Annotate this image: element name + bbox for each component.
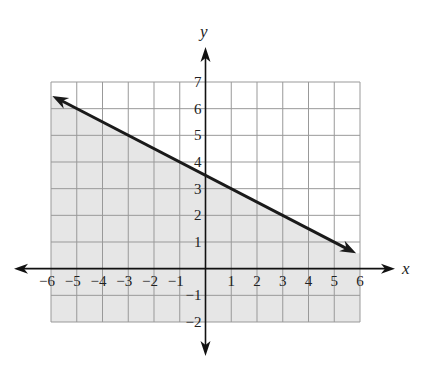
y-tick-label: 1 [194,234,202,250]
y-tick-label: 3 [194,181,202,197]
x-tick-label: −3 [116,273,132,289]
x-tick-label: 5 [331,273,339,289]
inequality-graph: −6−5−4−3−2−11234567654321−1−2 x y [0,0,423,377]
x-tick-label: 2 [253,273,261,289]
x-axis-label: x [401,259,410,278]
y-tick-label: 2 [194,207,202,223]
y-tick-label: 6 [194,101,202,117]
x-tick-label: −2 [142,273,158,289]
y-tick-label: 7 [194,74,202,90]
x-tick-label: −5 [65,273,81,289]
y-tick-label: 4 [194,154,202,170]
y-tick-label: −2 [186,314,202,330]
x-tick-label: −1 [168,273,184,289]
y-axis-label: y [198,22,208,41]
x-tick-label: 6 [356,273,364,289]
y-tick-label: −1 [186,287,202,303]
x-tick-label: 1 [228,273,236,289]
x-tick-label: −6 [39,273,55,289]
x-tick-label: 3 [279,273,287,289]
x-tick-label: 4 [305,273,313,289]
x-tick-label: −4 [91,273,107,289]
y-tick-label: 5 [194,127,202,143]
